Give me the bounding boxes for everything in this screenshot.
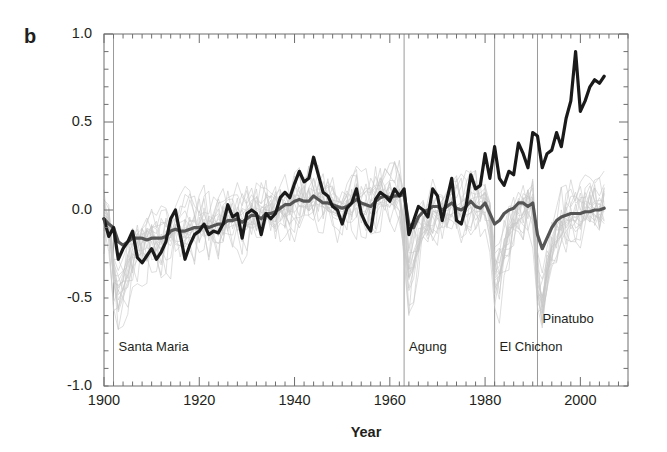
- x-tick-label: 1900: [74, 392, 134, 408]
- volcano-label-pinatubo: Pinatubo: [542, 311, 593, 326]
- x-tick-label: 1960: [360, 392, 420, 408]
- y-tick-label: -1.0: [46, 377, 92, 393]
- volcano-label-agung: Agung: [409, 339, 447, 354]
- chart-canvas: [0, 0, 667, 452]
- figure-panel-b: b Temperature anomaly (°C) Year 1.00.50.…: [0, 0, 667, 452]
- x-tick-label: 1940: [265, 392, 325, 408]
- y-tick-label: -0.5: [46, 289, 92, 305]
- x-tick-label: 1980: [455, 392, 515, 408]
- x-tick-label: 2000: [550, 392, 610, 408]
- x-tick-label: 1920: [169, 392, 229, 408]
- volcano-label-el-chichon: El Chichon: [500, 339, 563, 354]
- observed-temperature-line: [104, 52, 604, 263]
- y-tick-label: 0.0: [46, 201, 92, 217]
- y-tick-label: 0.5: [46, 113, 92, 129]
- y-tick-label: 1.0: [46, 25, 92, 41]
- ensemble-members-group: [104, 160, 604, 329]
- volcano-label-santa-maria: Santa Maria: [119, 339, 189, 354]
